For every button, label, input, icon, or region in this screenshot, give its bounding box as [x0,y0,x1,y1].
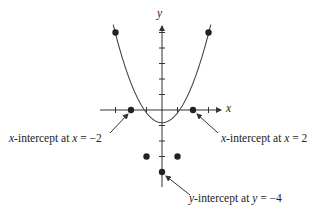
right-intercept-label: x-intercept at x = 2 [221,132,307,144]
y-intercept-arrow [166,176,190,195]
y-axis-label: y [157,7,162,19]
x-axis-label: x [226,102,231,114]
parabola-graph [0,0,317,212]
left-intercept-label: x-intercept at x = −2 [9,132,102,144]
y-intercept-label: y-intercept at y = −4 [189,192,282,204]
left-intercept-arrow [110,114,128,133]
right-intercept-arrow [197,114,218,133]
